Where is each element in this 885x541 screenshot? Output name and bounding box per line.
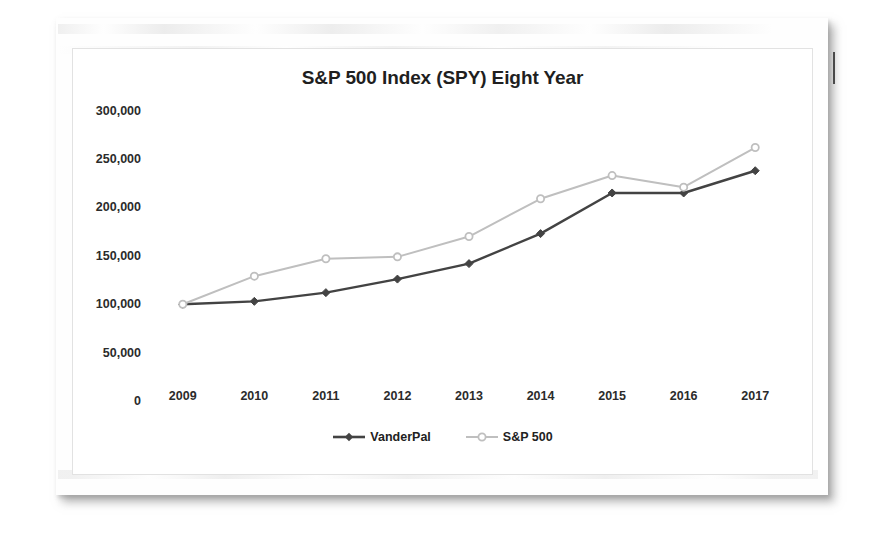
series-line <box>183 148 755 305</box>
x-axis-tick-label: 2015 <box>582 389 642 403</box>
x-axis-tick-label: 2014 <box>511 389 571 403</box>
x-axis-tick-label: 2013 <box>439 389 499 403</box>
y-axis-tick-label: 200,000 <box>77 200 141 214</box>
y-axis: 050,000100,000150,000200,000250,000300,0… <box>73 97 141 447</box>
x-axis: 200920102011201220132014201520162017 <box>147 389 791 413</box>
legend-swatch-icon <box>465 430 499 444</box>
legend-swatch-icon <box>332 430 366 444</box>
data-point-marker <box>752 144 759 151</box>
y-axis-tick-label: 300,000 <box>77 104 141 118</box>
legend-label: S&P 500 <box>503 430 553 444</box>
x-axis-tick-label: 2009 <box>153 389 213 403</box>
y-axis-tick-label: 0 <box>77 394 141 408</box>
chart-container[interactable]: S&P 500 Index (SPY) Eight Year 050,00010… <box>72 48 813 475</box>
data-point-marker <box>680 184 687 191</box>
data-point-marker <box>322 289 330 297</box>
pen-mark-icon <box>833 52 835 84</box>
chart-title: S&P 500 Index (SPY) Eight Year <box>73 67 812 89</box>
data-point-marker <box>179 301 186 308</box>
y-axis-tick-label: 100,000 <box>77 297 141 311</box>
y-axis-tick-label: 250,000 <box>77 152 141 166</box>
data-point-marker <box>322 255 329 262</box>
x-axis-tick-label: 2017 <box>725 389 785 403</box>
data-point-marker <box>394 253 401 260</box>
x-axis-tick-label: 2012 <box>367 389 427 403</box>
data-point-marker <box>393 275 401 283</box>
plot-area <box>147 103 791 401</box>
data-point-marker <box>465 233 472 240</box>
x-axis-tick-label: 2010 <box>224 389 284 403</box>
x-axis-tick-label: 2011 <box>296 389 356 403</box>
data-point-marker <box>609 172 616 179</box>
x-axis-tick-label: 2016 <box>654 389 714 403</box>
data-point-marker <box>465 260 473 268</box>
data-point-marker <box>751 167 759 175</box>
legend-item[interactable]: S&P 500 <box>465 430 553 444</box>
series-plot <box>147 103 791 401</box>
y-axis-tick-label: 150,000 <box>77 249 141 263</box>
series-s-p-500 <box>179 144 759 308</box>
legend-label: VanderPal <box>370 430 430 444</box>
y-axis-tick-label: 50,000 <box>77 346 141 360</box>
data-point-marker <box>250 297 258 305</box>
data-point-marker <box>251 273 258 280</box>
chart-legend: VanderPalS&P 500 <box>73 430 812 444</box>
legend-item[interactable]: VanderPal <box>332 430 430 444</box>
data-point-marker <box>537 195 544 202</box>
